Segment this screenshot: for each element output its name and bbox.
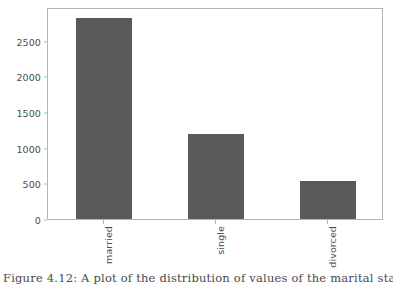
x-tick-mark <box>103 220 104 224</box>
y-tick-label: 2000 <box>16 72 41 83</box>
plot-frame <box>47 8 383 220</box>
x-tick-label: single <box>215 226 226 255</box>
plot-area <box>48 9 382 219</box>
bar-divorced <box>300 181 356 219</box>
y-tick-label: 0 <box>35 215 41 226</box>
x-tick-label: divorced <box>327 226 338 268</box>
y-axis: 05001000150020002500 <box>0 8 47 220</box>
figure-caption: Figure 4.12: A plot of the distribution … <box>3 272 393 284</box>
x-tick-label: married <box>103 226 114 264</box>
figure-container: 05001000150020002500 marriedsingledivorc… <box>0 0 394 284</box>
bar-married <box>76 18 132 219</box>
x-axis: marriedsingledivorced <box>47 220 383 280</box>
x-tick-mark <box>327 220 328 224</box>
y-tick-label: 2500 <box>16 36 41 47</box>
y-tick-label: 1000 <box>16 143 41 154</box>
y-tick-label: 1500 <box>16 108 41 119</box>
x-tick-mark <box>215 220 216 224</box>
bar-single <box>188 134 244 219</box>
y-tick-label: 500 <box>23 179 41 190</box>
